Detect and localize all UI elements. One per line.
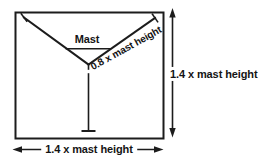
anchor-tick-right (152, 14, 157, 21)
arrow-right-icon (154, 146, 164, 152)
ground-area-square (16, 13, 164, 139)
arrow-left-icon (13, 146, 23, 152)
arrow-up-icon (169, 8, 175, 18)
height-dimension-label: 1.4 x mast height (167, 67, 261, 81)
arrow-down-icon (169, 128, 175, 138)
diagram-canvas: Mast 0.8 x mast height 1.4 x mast height… (0, 0, 273, 165)
width-dimension-label: 1.4 x mast height (41, 142, 137, 156)
anchor-tick-left (21, 14, 26, 21)
mast-label: Mast (75, 33, 100, 45)
mast-guying-plan-diagram (0, 0, 273, 165)
